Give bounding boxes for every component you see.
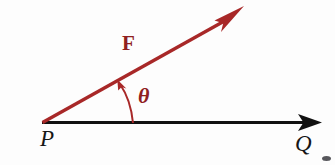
baseline-ray-PQ — [42, 114, 322, 131]
point-label-P: P — [40, 127, 54, 150]
force-vector-angle-diagram: F θ P Q — [0, 0, 335, 165]
force-vector-label: F — [122, 33, 135, 54]
angle-arc-theta — [117, 80, 133, 123]
point-label-Q: Q — [295, 132, 312, 155]
angle-label-theta: θ — [138, 85, 149, 107]
force-vector-arrowhead-icon — [215, 6, 245, 32]
angle-arc-shaft — [121, 85, 134, 123]
page-artifact-smudge — [322, 156, 331, 161]
angle-arc-arrowhead-icon — [117, 80, 126, 91]
